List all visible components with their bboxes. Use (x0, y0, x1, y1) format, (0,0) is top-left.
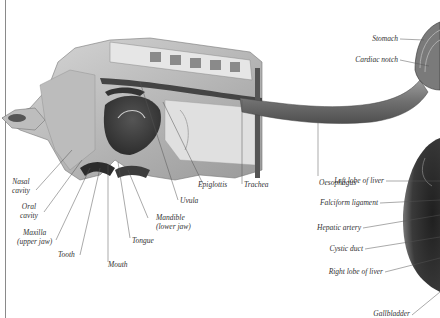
label-stomach: Stomach (372, 34, 398, 43)
label-line: Maxilla (17, 228, 52, 237)
label-line: Nasal (12, 177, 30, 186)
label-right-lobe-of-liver: Right lobe of liver (329, 267, 383, 276)
label-line: Mandible (156, 213, 191, 222)
label-falciform-ligament: Falciform ligament (320, 198, 378, 207)
label-line: (lower jaw) (156, 222, 191, 231)
anatomy-diagram: Nasal cavity Oral cavity Maxilla (upper … (0, 0, 440, 318)
label-left-lobe-of-liver: Left lobe of liver (334, 176, 384, 185)
label-mouth: Mouth (108, 260, 128, 269)
label-tooth: Tooth (58, 250, 75, 259)
label-line: Oral (20, 202, 38, 211)
label-tongue: Tongue (132, 236, 154, 245)
oesophagus-tube (240, 80, 428, 124)
liver (403, 138, 440, 292)
label-hepatic-artery: Hepatic artery (317, 223, 361, 232)
label-mandible: Mandible (lower jaw) (156, 213, 191, 231)
label-maxilla: Maxilla (upper jaw) (17, 228, 52, 246)
label-line: cavity (12, 186, 30, 195)
label-cardiac-notch: Cardiac notch (355, 55, 398, 64)
label-uvula: Uvula (180, 196, 198, 205)
label-line: (upper jaw) (17, 237, 52, 246)
label-trachea: Trachea (244, 180, 269, 189)
label-line: cavity (20, 211, 38, 220)
label-gallbladder: Gallbladder (373, 309, 410, 318)
label-oral-cavity: Oral cavity (20, 202, 38, 220)
head-section (2, 38, 262, 180)
label-epiglottis: Epiglottis (198, 180, 227, 189)
label-cystic-duct: Cystic duct (329, 244, 363, 253)
label-nasal-cavity: Nasal cavity (12, 177, 30, 195)
